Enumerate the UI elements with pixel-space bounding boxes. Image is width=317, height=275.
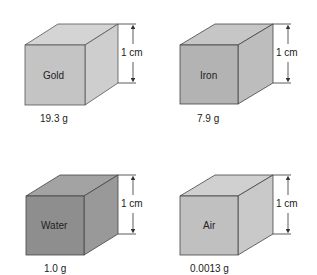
gold-cube: Gold: [25, 24, 118, 105]
air-dimension: 1 cm: [273, 175, 298, 234]
water-dimension: 1 cm: [118, 175, 143, 234]
water-dimension-label: 1 cm: [121, 198, 143, 209]
iron-dimension-label: 1 cm: [276, 47, 298, 58]
air-mass: 0.0013 g: [190, 263, 229, 274]
gold-dimension: 1 cm: [118, 24, 143, 83]
water-mass: 1.0 g: [44, 263, 66, 274]
gold-mass: 19.3 g: [40, 113, 68, 124]
cube-diagram: Gold 1 cm Iron 1 cm Water 1 cm: [0, 0, 317, 275]
gold-label: Gold: [43, 70, 64, 81]
air-label: Air: [203, 220, 216, 231]
air-dimension-label: 1 cm: [276, 198, 298, 209]
water-label: Water: [41, 220, 68, 231]
iron-dimension: 1 cm: [273, 24, 298, 83]
iron-mass: 7.9 g: [197, 113, 219, 124]
air-cube: Air: [180, 175, 273, 255]
iron-cube: Iron: [180, 24, 273, 104]
water-cube: Water: [26, 175, 118, 255]
iron-label: Iron: [200, 70, 217, 81]
gold-dimension-label: 1 cm: [121, 47, 143, 58]
